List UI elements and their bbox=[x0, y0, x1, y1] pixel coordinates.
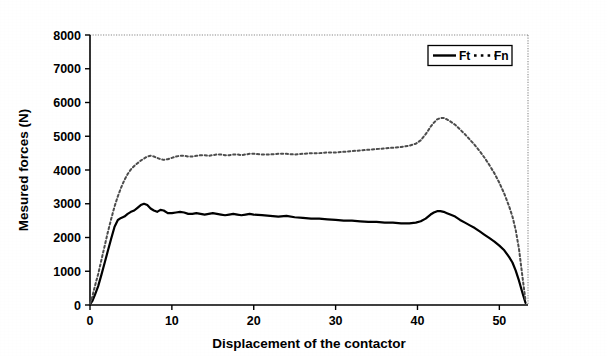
x-tick-label: 30 bbox=[329, 314, 343, 328]
x-axis-title: Displacement of the contactor bbox=[212, 336, 406, 351]
y-axis-title: Mesured forces (N) bbox=[16, 109, 31, 231]
x-tick-label: 40 bbox=[411, 314, 425, 328]
figure-container: 010002000300040005000600070008000 010203… bbox=[0, 0, 607, 356]
x-tick-label: 50 bbox=[492, 314, 506, 328]
legend-label-ft: Ft bbox=[459, 49, 470, 63]
chart-legend[interactable]: Ft Fn bbox=[428, 46, 512, 66]
y-tick-label: 6000 bbox=[53, 96, 81, 110]
y-tick-label: 3000 bbox=[53, 197, 81, 211]
y-tick-label: 5000 bbox=[53, 130, 81, 144]
force-displacement-chart: 010002000300040005000600070008000 010203… bbox=[0, 0, 607, 356]
plot-area-background bbox=[90, 35, 528, 305]
x-tick-label: 10 bbox=[165, 314, 179, 328]
legend-label-fn: Fn bbox=[494, 49, 509, 63]
y-tick-label: 1000 bbox=[53, 265, 81, 279]
x-tick-label: 20 bbox=[247, 314, 261, 328]
y-tick-label: 4000 bbox=[53, 164, 81, 178]
y-tick-label: 0 bbox=[74, 299, 81, 313]
y-tick-label: 7000 bbox=[53, 62, 81, 76]
y-tick-label: 8000 bbox=[53, 29, 81, 43]
y-tick-label: 2000 bbox=[53, 231, 81, 245]
x-axis-ticks: 01020304050 bbox=[87, 305, 507, 328]
y-axis-ticks: 010002000300040005000600070008000 bbox=[53, 29, 90, 313]
x-tick-label: 0 bbox=[87, 314, 94, 328]
